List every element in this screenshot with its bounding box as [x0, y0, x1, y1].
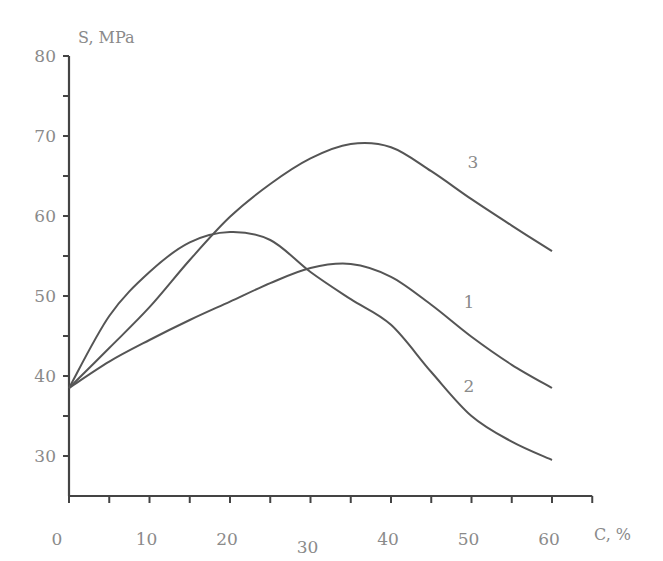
x-tick-label: 50 [458, 529, 480, 549]
series-1-line [69, 264, 552, 388]
curve-label-2: 2 [463, 376, 474, 396]
axis-tick-labels: 3040506070800102030405060 [34, 46, 559, 557]
x-axis-title: C, % [594, 525, 631, 544]
x-tick-label: 60 [538, 529, 560, 549]
curve-labels: 123 [463, 152, 478, 396]
x-tick-label: 0 [52, 529, 63, 549]
series-3-line [69, 143, 552, 388]
line-chart: 3040506070800102030405060 123 S, MPa C, … [0, 0, 663, 561]
y-axis-title: S, MPa [78, 28, 135, 47]
x-tick-label: 10 [136, 529, 158, 549]
data-series [69, 143, 552, 460]
series-2-line [69, 232, 552, 460]
y-tick-label: 60 [34, 206, 56, 226]
curve-label-3: 3 [467, 152, 478, 172]
y-tick-label: 80 [34, 46, 56, 66]
y-tick-label: 40 [34, 366, 56, 386]
curve-label-1: 1 [463, 292, 474, 312]
y-tick-label: 30 [34, 446, 56, 466]
axes [69, 56, 592, 496]
y-tick-label: 50 [34, 286, 56, 306]
y-tick-label: 70 [34, 126, 56, 146]
x-tick-label: 40 [377, 529, 399, 549]
x-tick-label: 20 [216, 529, 238, 549]
x-tick-label: 30 [297, 537, 319, 557]
